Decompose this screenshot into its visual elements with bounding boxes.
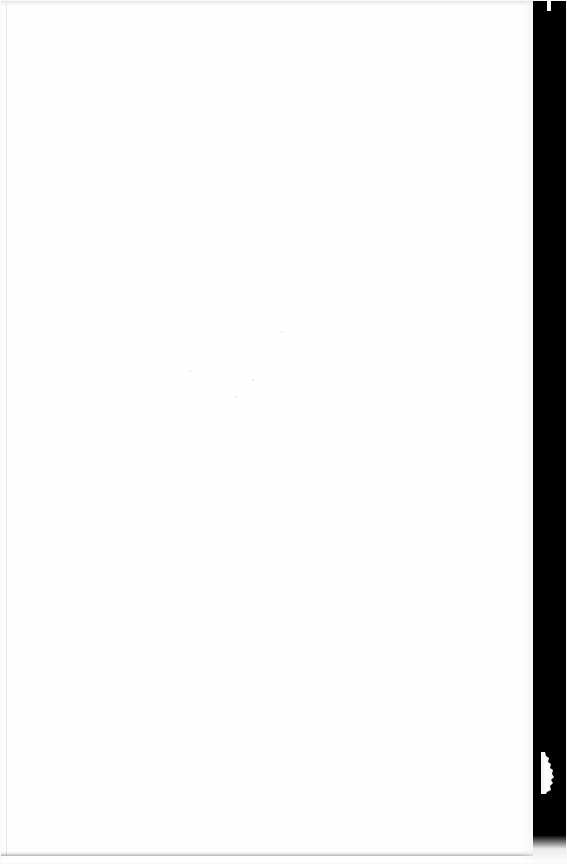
dust-speck [288,334,289,335]
dust-speck [235,412,236,413]
bottom-edge-scan-band [0,851,552,856]
scanner-bed-bottom-fade [533,824,567,864]
dust-speck [310,545,311,546]
dust-speck [235,396,237,398]
dust-speck [58,576,59,577]
dust-speck [189,370,191,372]
dust-speck [228,490,229,491]
dust-speck [155,494,156,495]
dust-speck [168,487,169,488]
dust-speck [67,619,68,620]
paper-page [0,0,552,860]
dust-speck [284,337,285,338]
scanner-bed-strip [533,0,567,864]
dust-speck [332,420,333,421]
dust-speck [150,490,151,491]
dust-speck [398,615,399,616]
scanned-page-canvas [0,0,567,864]
dust-speck [361,484,362,485]
left-margin-scan-line [6,4,7,856]
dust-speck [355,482,356,483]
dust-speck [276,386,277,387]
scanner-bed-top-notch [547,0,551,11]
dust-speck [252,379,254,381]
dust-speck [420,700,421,701]
top-edge-scan-band [0,0,552,6]
dust-speck [281,331,283,333]
dust-speck [243,428,244,429]
dust-speck [103,697,104,698]
torn-paper-edge [541,752,557,794]
